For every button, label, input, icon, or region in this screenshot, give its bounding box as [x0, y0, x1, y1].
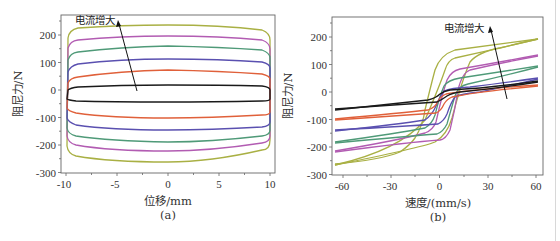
y-tick-labels-b: 200 100 0 -100 -200 -300 [307, 31, 328, 181]
hysteresis-loops-b [335, 39, 538, 165]
panel-a: 200 100 0 -100 -200 -300 -10 -5 0 5 10 位… [11, 14, 276, 222]
svg-text:0: 0 [51, 84, 57, 96]
svg-text:100: 100 [311, 59, 328, 71]
figure: 200 100 0 -100 -200 -300 -10 -5 0 5 10 位… [0, 0, 560, 241]
svg-text:-60: -60 [335, 180, 350, 192]
svg-text:100: 100 [40, 57, 57, 69]
panel-label-a: (a) [160, 208, 176, 222]
x-tick-labels-a: -10 -5 0 5 10 [57, 178, 276, 190]
y-tick-labels-a: 200 100 0 -100 -200 -300 [36, 29, 57, 179]
svg-text:10: 10 [265, 178, 277, 190]
annotation-current-increase-a: 电流增大 [75, 14, 116, 26]
svg-text:-300: -300 [307, 169, 328, 181]
panel-label-b: (b) [430, 210, 446, 224]
panel-b: 200 100 0 -100 -200 -300 -60 -30 0 30 60… [281, 17, 543, 224]
svg-text:-300: -300 [36, 167, 57, 179]
svg-text:30: 30 [483, 180, 495, 192]
svg-text:60: 60 [531, 180, 543, 192]
svg-text:200: 200 [311, 31, 328, 43]
y-axis-title-a: 阻尼力/N [11, 71, 25, 118]
svg-text:-5: -5 [110, 178, 120, 190]
arrow-line-a [119, 24, 137, 91]
arrow-head-b [488, 26, 493, 33]
svg-text:-200: -200 [307, 141, 328, 153]
svg-text:-30: -30 [383, 180, 398, 192]
svg-text:0: 0 [437, 180, 443, 192]
y-ticks-b [329, 23, 332, 175]
svg-text:-200: -200 [36, 139, 57, 151]
svg-text:200: 200 [40, 29, 57, 41]
svg-text:-10: -10 [57, 178, 72, 190]
svg-text:-100: -100 [307, 114, 328, 126]
annotation-current-increase-b: 电流增大 [444, 22, 485, 34]
svg-text:5: 5 [216, 178, 222, 190]
svg-text:0: 0 [322, 86, 328, 98]
arrow-head-a [116, 20, 121, 27]
y-axis-title-b: 阻尼力/N [281, 73, 295, 120]
svg-text:-100: -100 [36, 112, 57, 124]
x-axis-title-a: 位移/mm [144, 194, 192, 208]
svg-text:0: 0 [165, 178, 171, 190]
x-axis-title-b: 速度/(mm/s) [405, 196, 471, 210]
hysteresis-loops-a [67, 25, 270, 162]
x-tick-labels-b: -60 -30 0 30 60 [335, 180, 542, 192]
